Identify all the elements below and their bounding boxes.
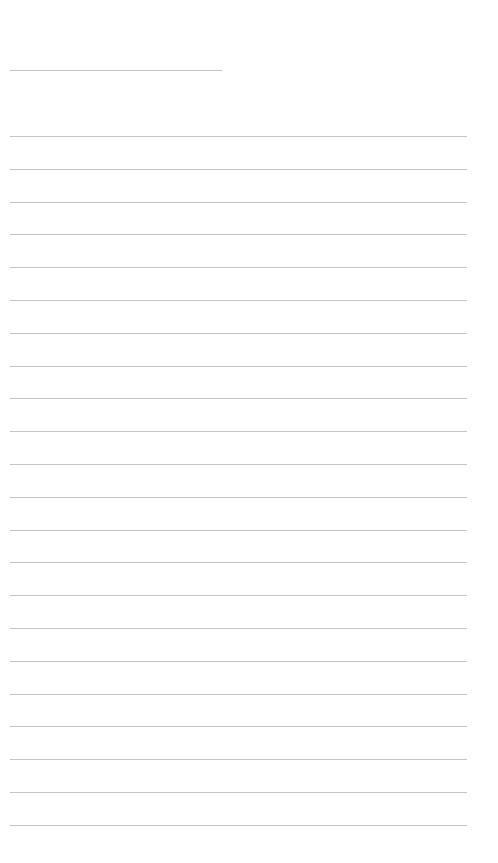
ruled-line <box>10 661 467 662</box>
ruled-line <box>10 267 467 268</box>
ruled-line <box>10 431 467 432</box>
ruled-line <box>10 792 467 793</box>
ruled-line <box>10 562 467 563</box>
ruled-line <box>10 759 467 760</box>
ruled-line <box>10 136 467 137</box>
ruled-line <box>10 202 467 203</box>
ruled-line <box>10 234 467 235</box>
ruled-line <box>10 530 467 531</box>
ruled-line <box>10 464 467 465</box>
ruled-lines-area <box>10 0 467 863</box>
ruled-line <box>10 169 467 170</box>
ruled-line <box>10 366 467 367</box>
ruled-line <box>10 398 467 399</box>
ruled-line <box>10 333 467 334</box>
ruled-line <box>10 694 467 695</box>
ruled-line <box>10 628 467 629</box>
ruled-line <box>10 497 467 498</box>
lined-paper-page <box>0 0 498 863</box>
ruled-line <box>10 825 467 826</box>
ruled-line <box>10 595 467 596</box>
ruled-line <box>10 300 467 301</box>
ruled-line <box>10 726 467 727</box>
